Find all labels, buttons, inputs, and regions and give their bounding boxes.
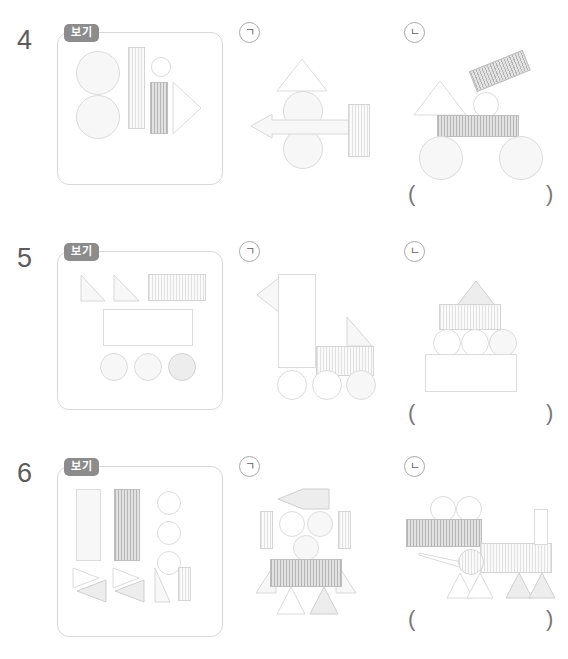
shape-circle	[461, 329, 489, 357]
example-badge: 보기	[64, 243, 99, 261]
shape-rectangle	[260, 511, 273, 549]
example-box	[57, 32, 223, 185]
shape-circle	[419, 136, 463, 180]
answer-paren-open: (	[408, 608, 415, 630]
option-label-nieun: ㄴ	[404, 241, 425, 262]
shape-triangle-thin	[154, 567, 172, 603]
option-label-giyeok: ㄱ	[239, 456, 260, 477]
problem-row-5: 5 보기 ㄱ ㄴ	[0, 220, 568, 440]
answer-paren-open: (	[408, 402, 415, 424]
option-figure-nieun	[407, 258, 557, 408]
answer-paren-open: (	[408, 183, 415, 205]
shape-circle	[433, 329, 461, 357]
shape-circle	[134, 353, 162, 381]
option-figure-giyeok	[243, 473, 393, 638]
worksheet-page: 4 보기 ㄱ ㄴ	[0, 0, 568, 659]
shape-circle	[307, 511, 333, 537]
shape-circle	[168, 353, 196, 381]
shape-circle	[100, 353, 128, 381]
shape-circle	[293, 535, 319, 561]
shape-rectangle	[338, 511, 351, 549]
shape-circle	[499, 136, 543, 180]
shape-arrow-left	[250, 112, 352, 140]
shape-circle	[312, 370, 342, 400]
shape-circle	[157, 491, 181, 515]
shape-circle	[157, 521, 181, 545]
problem-row-4: 4 보기 ㄱ ㄴ	[0, 0, 568, 220]
shape-circle	[346, 370, 376, 400]
problem-number: 4	[17, 27, 32, 54]
shape-rectangle	[278, 274, 316, 368]
shape-triangle-right-angle	[346, 316, 373, 348]
shape-rectangle	[103, 309, 193, 346]
shape-rectangle	[425, 354, 517, 392]
example-box	[57, 251, 223, 410]
shape-triangle-up	[528, 572, 556, 600]
shape-triangle-up	[413, 80, 467, 116]
problem-number: 5	[17, 245, 32, 272]
example-shapes	[58, 252, 224, 411]
problem-row-6: 6 보기 ㄱ	[0, 440, 568, 659]
shape-circle	[76, 51, 120, 95]
shape-rectangle	[406, 519, 482, 547]
shape-rectangle	[270, 559, 342, 587]
shape-circle	[279, 511, 305, 537]
answer-paren-close: )	[546, 183, 553, 205]
shape-triangle-right-angle	[113, 274, 141, 303]
shape-rectangle	[128, 47, 145, 129]
answer-paren-close: )	[546, 608, 553, 630]
problem-number: 6	[17, 460, 32, 487]
shape-rectangle	[148, 274, 206, 301]
shape-triangle-left	[76, 579, 108, 603]
shape-triangle-up	[276, 58, 328, 92]
shape-kite-left	[277, 488, 331, 510]
shape-circle	[277, 370, 307, 400]
example-shapes	[58, 33, 224, 186]
shape-rectangle	[150, 82, 168, 134]
option-figure-nieun	[400, 473, 565, 638]
shape-rectangle	[437, 115, 519, 137]
option-label-giyeok: ㄱ	[239, 22, 260, 43]
example-shapes	[58, 467, 224, 638]
option-label-nieun: ㄴ	[404, 456, 425, 477]
shape-circle	[76, 95, 120, 139]
shape-rectangle	[348, 104, 370, 157]
option-figure-giyeok	[243, 258, 393, 408]
option-label-giyeok: ㄱ	[239, 241, 260, 262]
answer-paren-close: )	[546, 402, 553, 424]
shape-circle	[489, 329, 517, 357]
option-label-nieun: ㄴ	[404, 22, 425, 43]
shape-triangle-up	[309, 586, 339, 616]
shape-triangle-up	[276, 586, 306, 616]
shape-rectangle	[534, 509, 548, 545]
shape-rectangle	[439, 304, 501, 330]
option-figure-giyeok	[240, 44, 385, 184]
shape-circle	[151, 57, 171, 77]
example-badge: 보기	[64, 24, 99, 42]
shape-triangle-left	[114, 579, 146, 603]
shape-triangle-right-angle	[80, 274, 106, 303]
option-figure-nieun	[405, 40, 555, 185]
shape-triangle	[172, 81, 202, 135]
shape-rectangle	[480, 543, 552, 573]
example-badge: 보기	[64, 458, 99, 476]
example-box	[57, 466, 223, 637]
shape-triangle-up	[466, 572, 494, 600]
shape-rectangle	[76, 489, 101, 561]
shape-rectangle	[178, 567, 191, 601]
shape-rectangle	[114, 489, 140, 561]
shape-rectangle-rotated	[469, 50, 531, 92]
